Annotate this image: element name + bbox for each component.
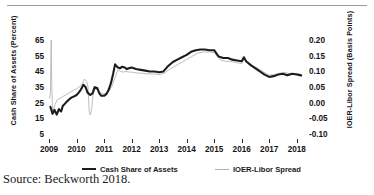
- axis-tick-label: -0.05: [309, 114, 339, 124]
- axis-tick-label: 15: [20, 114, 44, 124]
- axis-tick-label: 55: [20, 52, 44, 62]
- legend-swatch-icon: [82, 168, 96, 170]
- right-axis-tick-labels: -0.10-0.050.000.050.100.150.20: [309, 24, 339, 138]
- x-axis-tick: [77, 139, 78, 143]
- x-axis-tick-label: 2018: [280, 145, 314, 154]
- axis-tick-label: 0.20: [309, 36, 339, 46]
- x-axis-tick: [104, 139, 105, 143]
- x-axis-tick: [187, 139, 188, 143]
- x-axis-tick: [269, 139, 270, 143]
- x-axis-tick: [132, 139, 133, 143]
- legend-label: IOER-Libor Spread: [233, 165, 301, 174]
- x-axis-tick: [242, 139, 243, 143]
- figure-page: Cash Share of Assets (Percent) IOER-Libo…: [0, 0, 374, 195]
- legend-item-ioer-libor-spread: IOER-Libor Spread: [215, 163, 301, 175]
- left-axis-tick-labels: 5152535455565: [20, 24, 44, 138]
- axis-tick-label: 25: [20, 99, 44, 109]
- axis-tick-label: -0.10: [309, 130, 339, 140]
- series-line-ioer-libor-spread: [50, 40, 302, 115]
- axis-tick-label: 0.05: [309, 83, 339, 93]
- x-axis: 2009201020112012201320142015201620172018: [49, 139, 305, 159]
- axis-tick-label: 5: [20, 130, 44, 140]
- x-axis-tick: [49, 139, 50, 143]
- x-axis-tick: [297, 139, 298, 143]
- axis-tick-label: 45: [20, 67, 44, 77]
- axis-tick-label: 65: [20, 36, 44, 46]
- chart-figure: Cash Share of Assets (Percent) IOER-Libo…: [0, 10, 374, 150]
- left-axis-title: Cash Share of Assets (Percent): [9, 12, 18, 130]
- axis-tick-label: 0.10: [309, 67, 339, 77]
- axis-tick-label: 0.15: [309, 52, 339, 62]
- right-axis-title: IOER-Libor Spread (Basis Points): [345, 7, 354, 133]
- axis-tick-label: 0.00: [309, 99, 339, 109]
- x-axis-tick: [214, 139, 215, 143]
- series-line-cash-share-of-assets: [50, 49, 301, 114]
- top-divider-rule: [7, 5, 367, 6]
- plot-area: [49, 29, 305, 139]
- x-axis-tick: [159, 139, 160, 143]
- source-caption: Source: Beckworth 2018.: [3, 172, 130, 187]
- axis-tick-label: 35: [20, 83, 44, 93]
- legend-swatch-icon: [215, 169, 229, 170]
- series-canvas: [49, 29, 305, 139]
